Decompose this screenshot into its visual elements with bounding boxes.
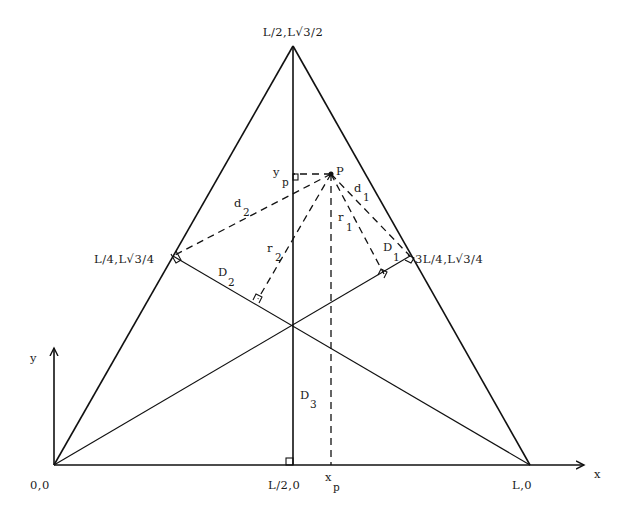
d1-label: d [354,181,362,195]
triangle-left-side [54,46,293,465]
point-p-label: P [336,164,344,178]
right-angle-marker-base [286,458,293,465]
label-apex: L/2,L√3/2 [263,25,323,39]
d1-sub: 1 [363,191,370,203]
yp-label: y [272,165,280,179]
D1-label: D [383,240,393,254]
D1-sub: 1 [393,251,400,263]
r1-label: r [338,210,344,224]
r1-sub: 1 [346,221,353,233]
label-base-midpoint: L/2,0 [268,478,300,492]
yp-sub: p [282,176,289,188]
D3-label: D [300,388,310,402]
r2-label: r [267,241,273,255]
d2-sub: 2 [243,206,250,218]
triangle-right-side [293,46,530,465]
label-right-midpoint: 3L/4,L√3/4 [415,252,483,266]
d2-label: d [234,196,242,210]
right-angle-marker-r2 [253,294,262,303]
point-p [329,172,334,177]
x-axis-label: x [594,467,601,481]
D2-sub: 2 [228,276,235,288]
y-axis-label: y [29,351,37,365]
label-origin: 0,0 [30,478,50,492]
xp-sub: p [333,481,340,493]
label-bottom-right: L,0 [512,478,532,492]
median-right-vertex [173,256,530,465]
D2-label: D [218,265,228,279]
D3-sub: 3 [310,398,317,410]
xp-label: x [325,470,332,484]
label-left-midpoint: L/4,L√3/4 [94,252,154,266]
triangle-diagram: P L/2,L√3/2 0,0 L,0 L/2,0 L/4,L√3/4 3L/4… [0,0,629,515]
r2-sub: 2 [275,251,282,263]
